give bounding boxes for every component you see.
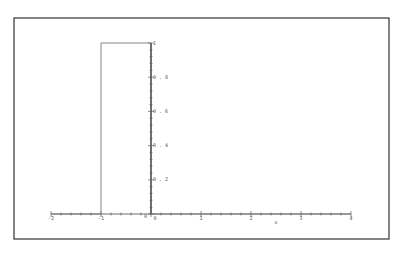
- y-tick-label: 0 . 2: [153, 176, 168, 182]
- x-tick-label: 1: [199, 215, 202, 221]
- x-tick-label: -1: [98, 215, 104, 221]
- x-tick-label: 4: [349, 215, 352, 221]
- x-tick-label: 3: [299, 215, 302, 221]
- y-tick-label: 0 . 4: [153, 142, 168, 148]
- x-tick-label: 2: [249, 215, 252, 221]
- plot-frame: [14, 18, 389, 239]
- chart: -2-1012340 . 20 . 40 . 60 . 81 x 0: [0, 0, 400, 253]
- y-tick-label: 0 . 6: [153, 108, 168, 114]
- x-axis-title: x: [274, 219, 277, 225]
- x-tick-label: -2: [48, 215, 54, 221]
- x-tick-label: 0: [153, 215, 156, 221]
- y-tick-label: 0 . 8: [153, 74, 168, 80]
- origin-label: 0: [144, 213, 147, 219]
- y-tick-label: 1: [153, 40, 156, 46]
